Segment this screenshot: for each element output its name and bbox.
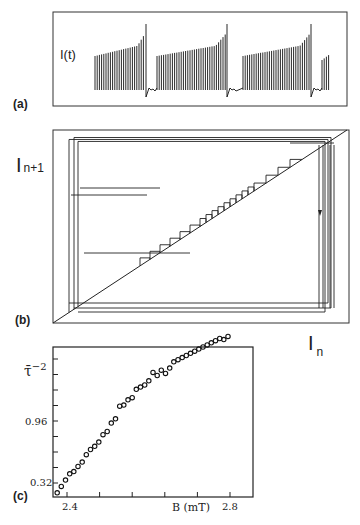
panel-c-ylabel: τ̄−2 xyxy=(24,361,47,379)
data-point xyxy=(55,491,59,495)
x-tick-2.8: 2.8 xyxy=(222,501,238,512)
data-point xyxy=(159,368,163,372)
data-point xyxy=(122,403,126,407)
panel-c-label: (c) xyxy=(13,489,28,503)
data-point xyxy=(109,421,113,425)
data-point xyxy=(80,460,84,464)
data-point xyxy=(63,478,67,482)
data-point xyxy=(147,379,151,383)
data-point xyxy=(113,417,117,421)
data-point xyxy=(105,429,109,433)
data-point xyxy=(76,464,80,468)
data-point xyxy=(59,484,63,488)
data-point xyxy=(101,433,105,437)
y-tick-0.32: 0.32 xyxy=(30,477,52,488)
data-point xyxy=(226,334,230,338)
data-point xyxy=(97,440,101,444)
panel-c-xlabel: B (mT) xyxy=(172,501,210,514)
data-point xyxy=(88,447,92,451)
y-tick-0.96: 0.96 xyxy=(25,416,47,427)
data-point xyxy=(130,396,134,400)
data-point xyxy=(84,453,88,457)
data-point xyxy=(222,337,226,341)
data-point xyxy=(151,370,155,374)
x-tick-2.4: 2.4 xyxy=(62,501,78,512)
data-point xyxy=(143,383,147,387)
data-point xyxy=(155,373,159,377)
data-point xyxy=(163,371,167,375)
panel-c-plot xyxy=(0,0,360,525)
data-point xyxy=(168,366,172,370)
data-point xyxy=(93,444,97,448)
data-point xyxy=(72,469,76,473)
